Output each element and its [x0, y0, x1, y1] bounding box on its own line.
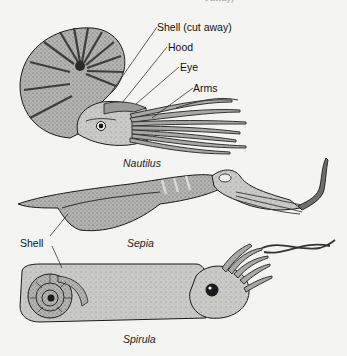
spirula-illustration: [20, 240, 335, 322]
sepia-illustration: [18, 158, 328, 236]
label-shell: Shell: [20, 238, 43, 249]
label-hood: Hood: [168, 42, 193, 53]
illustration-canvas: [0, 0, 347, 356]
cephalopod-figure: t away) Shell (cut away) Hood Eye Arms N…: [0, 0, 347, 356]
top-fragment-text: t away): [205, 0, 234, 3]
label-shell-cut-away: Shell (cut away): [157, 22, 232, 33]
caption-nautilus: Nautilus: [123, 158, 161, 169]
caption-sepia: Sepia: [127, 238, 154, 249]
label-arms: Arms: [193, 83, 218, 94]
label-eye: Eye: [180, 62, 198, 73]
caption-spirula: Spirula: [123, 334, 156, 345]
